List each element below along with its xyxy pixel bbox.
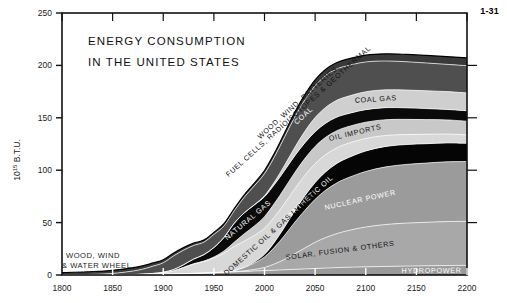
y-axis-title: 1015 B.T.U. [12, 139, 22, 181]
x-axis-tick-label: 2050 [306, 283, 325, 293]
y-axis-title-base: 10 [12, 171, 22, 181]
band-label: HYDROPOWER [401, 266, 461, 275]
x-axis-tick-label: 2150 [407, 283, 426, 293]
x-axis-tick-label: 2000 [255, 283, 274, 293]
chart-title-line-1: ENERGY CONSUMPTION [88, 35, 246, 47]
ground-annotation: WOOD, WIND & WATER WHEEL [62, 251, 131, 270]
chart-title-line-2: IN THE UNITED STATES [88, 56, 240, 68]
y-axis-tick-label: 150 [38, 113, 52, 123]
energy-consumption-area-chart: 0501001502002501800185019001950200020502… [0, 0, 507, 303]
svg-text:1015 B.T.U.: 1015 B.T.U. [12, 139, 22, 181]
x-axis-tick-label: 1900 [154, 283, 173, 293]
y-axis-tick-label: 50 [43, 218, 53, 228]
ground-annotation-line-1: WOOD, WIND [66, 251, 120, 260]
x-axis-tick-label: 1800 [53, 283, 72, 293]
y-axis-title-unit: B.T.U. [12, 139, 22, 165]
x-axis-tick-label: 2100 [356, 283, 375, 293]
y-axis-tick-label: 200 [38, 60, 52, 70]
x-axis-tick-label: 2200 [458, 283, 477, 293]
y-axis-tick-label: 100 [38, 165, 52, 175]
x-axis-tick-label: 1950 [204, 283, 223, 293]
y-axis-tick-label: 0 [47, 270, 52, 280]
chart-title: ENERGY CONSUMPTION IN THE UNITED STATES [88, 35, 246, 68]
x-axis-tick-label: 1850 [103, 283, 122, 293]
y-axis-tick-label: 250 [38, 8, 52, 18]
ground-annotation-line-2: & WATER WHEEL [62, 261, 131, 270]
figure-root: 1-31 05010015020025018001850190019502000… [0, 0, 507, 303]
